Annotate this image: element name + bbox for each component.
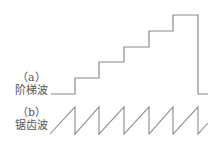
staircase-waveform <box>51 15 208 94</box>
sawtooth-waveform <box>50 107 208 134</box>
waveform-diagram <box>0 0 218 150</box>
